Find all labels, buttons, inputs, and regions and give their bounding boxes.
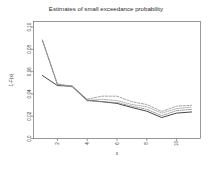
series-line-estimate-3 [42, 41, 191, 116]
y-tick-label: 0.10 [27, 22, 32, 31]
y-tick-label: 0.08 [27, 44, 32, 53]
series-line-estimate-2 [42, 40, 191, 113]
x-tick-label: 4 [85, 142, 90, 145]
x-tick-label: 2 [55, 142, 60, 145]
x-tick-label: 6 [115, 142, 120, 145]
x-tick-label: 10 [174, 141, 179, 147]
y-axis-ticks: 0.00.020.040.060.080.10 [27, 22, 34, 142]
y-tick-label: 0.06 [27, 67, 32, 76]
x-tick-label: 8 [144, 142, 149, 145]
y-axis-label: 1-F(x) [9, 73, 14, 86]
y-tick-label: 0.04 [27, 89, 32, 98]
y-tick-label: 0.0 [27, 135, 32, 142]
x-axis-ticks: 246810 [55, 139, 179, 147]
series-line-estimate-1 [42, 40, 191, 112]
chart-figure: Estimates of small exceedance probabilit… [0, 0, 212, 169]
plot-canvas: 0.00.020.040.060.080.10 246810 1-F(x) x [0, 0, 212, 169]
data-series-layer [42, 40, 191, 118]
y-tick-label: 0.02 [27, 111, 32, 120]
plot-frame [34, 22, 201, 139]
x-axis-label: x [116, 151, 119, 156]
